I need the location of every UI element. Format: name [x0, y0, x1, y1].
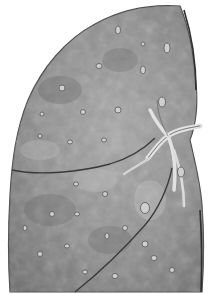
lung-illustration	[0, 0, 208, 294]
lung-body	[0, 0, 208, 294]
